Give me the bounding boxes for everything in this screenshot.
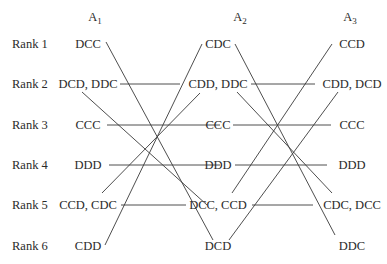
connection-line bbox=[102, 93, 200, 193]
a3-rank4-cell: DDD bbox=[338, 158, 365, 172]
a3-rank6-cell: DDC bbox=[339, 239, 365, 253]
a3-rank1-cell: CCD bbox=[339, 37, 365, 51]
a3-rank5-cell: CDC, DCC bbox=[323, 198, 381, 212]
a2-rank4-cell: DDD bbox=[204, 158, 231, 172]
a1-rank2-cell: DCD, DDC bbox=[58, 77, 117, 91]
connection-line bbox=[229, 92, 338, 240]
a1-rank1-cell: DCC bbox=[75, 37, 101, 51]
rank-label-2: Rank 2 bbox=[12, 77, 48, 91]
column-header-a2: A2 bbox=[233, 10, 247, 26]
connection-line bbox=[235, 44, 335, 235]
a1-rank6-cell: CDD bbox=[75, 239, 101, 253]
a2-rank3-cell: CCC bbox=[205, 118, 230, 132]
a1-rank3-cell: CCC bbox=[75, 118, 100, 132]
rank-label-5: Rank 5 bbox=[12, 198, 48, 212]
rank-label-1: Rank 1 bbox=[12, 37, 48, 51]
column-header-a3: A3 bbox=[343, 10, 357, 26]
connection-line bbox=[105, 44, 202, 245]
ranking-diagram: A1 A2 A3 Rank 1 Rank 2 Rank 3 Rank 4 Ran… bbox=[0, 0, 387, 264]
a3-rank2-cell: CDD, DCD bbox=[322, 77, 381, 91]
connection-line bbox=[237, 92, 332, 193]
a1-rank5-cell: CCD, CDC bbox=[59, 198, 117, 212]
rank-label-3: Rank 3 bbox=[12, 118, 48, 132]
a2-rank5-cell: DCC, CCD bbox=[189, 198, 247, 212]
rank-label-4: Rank 4 bbox=[12, 158, 48, 172]
connection-line bbox=[82, 92, 207, 205]
a1-rank4-cell: DDD bbox=[74, 158, 101, 172]
a2-rank6-cell: DCD bbox=[205, 239, 231, 253]
column-header-a1: A1 bbox=[88, 10, 102, 26]
a2-rank2-cell: CDD, DDC bbox=[188, 77, 247, 91]
connection-lines bbox=[0, 0, 387, 264]
rank-label-6: Rank 6 bbox=[12, 239, 48, 253]
a3-rank3-cell: CCC bbox=[339, 118, 364, 132]
a2-rank1-cell: CDC bbox=[205, 37, 231, 51]
